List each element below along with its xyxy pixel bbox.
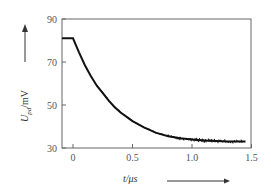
plot-frame	[62, 19, 251, 148]
x-arrow-head-icon	[224, 179, 230, 184]
y-ticks: 30507090	[47, 14, 66, 154]
x-axis-label: t/μs	[123, 173, 138, 184]
y-tick-label: 90	[47, 14, 57, 25]
noise-overlay	[97, 85, 244, 144]
x-tick-label: 0.5	[126, 152, 139, 163]
data-line	[62, 38, 246, 141]
y-axis-label: Upd/mV	[19, 89, 33, 122]
y-tick-label: 30	[47, 143, 57, 154]
y-arrow-head-icon	[22, 24, 28, 32]
chart: 30507090 00.51.01.5 Upd/mV t/μs	[0, 0, 271, 192]
y-tick-label: 50	[47, 100, 57, 111]
x-tick-label: 1.0	[186, 152, 199, 163]
y-tick-label: 70	[47, 57, 57, 68]
x-tick-label: 1.5	[245, 152, 258, 163]
x-tick-label: 0	[71, 152, 76, 163]
x-ticks: 00.51.01.5	[71, 144, 258, 163]
